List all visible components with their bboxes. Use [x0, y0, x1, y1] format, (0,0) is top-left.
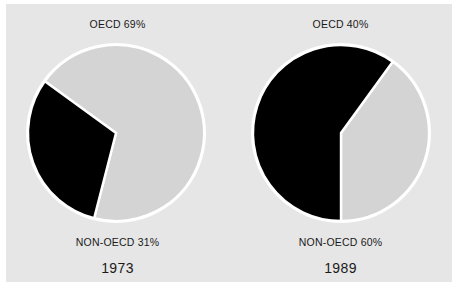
pie-panel-1973: OECD 69% NON-OECD 31% 1973 — [6, 4, 229, 282]
year-label-1989: 1989 — [229, 260, 452, 276]
plot-area: OECD 69% NON-OECD 31% 1973 OECD 40% — [6, 4, 452, 282]
pie-panel-1989: OECD 40% NON-OECD 60% 1989 — [229, 4, 452, 282]
pie-chart-figure: OECD 69% NON-OECD 31% 1973 OECD 40% — [0, 0, 458, 289]
non-oecd-share-label-1973: NON-OECD 31% — [6, 236, 229, 248]
non-oecd-share-label-1989: NON-OECD 60% — [229, 236, 452, 248]
year-label-1973: 1973 — [6, 260, 229, 276]
